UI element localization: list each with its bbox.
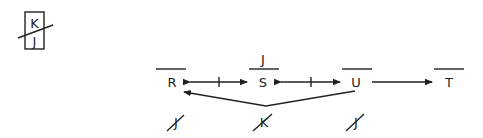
node-s: J S xyxy=(249,52,279,90)
node-label: S xyxy=(259,75,267,90)
diagram-canvas: K J R J S U T J xyxy=(0,0,483,138)
crossed-mark-under-u: J xyxy=(346,114,364,131)
crossed-mark-under-r: J xyxy=(167,115,184,131)
legend-bottom-letter: J xyxy=(32,34,37,49)
node-label: R xyxy=(167,75,176,90)
edge-r-s xyxy=(190,77,247,87)
legend-box: K J xyxy=(18,12,53,49)
legend-top-letter: K xyxy=(30,16,39,31)
node-t: T xyxy=(434,69,464,90)
crossed-mark-under-s: K xyxy=(253,114,272,131)
node-r: R xyxy=(156,69,186,90)
node-label: U xyxy=(351,75,361,90)
node-u: U xyxy=(342,69,372,90)
node-above-label: J xyxy=(260,52,265,67)
edge-u-r-bent xyxy=(184,91,355,106)
edge-s-u xyxy=(281,77,340,87)
node-label: T xyxy=(444,75,453,90)
